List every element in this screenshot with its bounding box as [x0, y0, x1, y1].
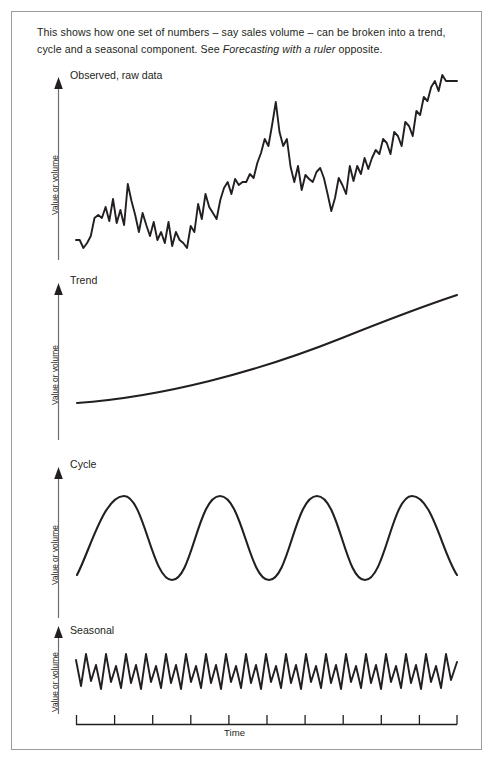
intro-text-part2: opposite.	[335, 43, 382, 55]
series-seasonal	[76, 654, 457, 689]
panel-trend: Trend Value or volume	[12, 260, 483, 440]
time-axis-label-text: Time	[224, 727, 245, 738]
time-axis-ticks	[77, 715, 458, 725]
chart-trend	[12, 260, 483, 440]
time-axis-svg	[12, 700, 483, 730]
figure-frame: This shows how one set of numbers – say …	[11, 11, 482, 750]
panel-observed: Observed, raw data Value or volume	[12, 60, 483, 260]
series-observed	[76, 75, 457, 248]
time-axis: Time	[12, 700, 483, 750]
chart-observed	[12, 60, 483, 260]
intro-paragraph: This shows how one set of numbers – say …	[37, 24, 462, 57]
time-axis-label: Time	[12, 727, 483, 738]
series-cycle	[77, 496, 457, 580]
y-axis-trend	[54, 283, 63, 440]
chart-cycle	[12, 440, 483, 618]
panel-cycle: Cycle Value or volume	[12, 440, 483, 618]
y-axis-cycle	[54, 467, 63, 618]
y-axis-observed	[54, 77, 63, 260]
series-trend	[77, 295, 457, 403]
intro-text-italic: Forecasting with a ruler	[223, 43, 336, 55]
